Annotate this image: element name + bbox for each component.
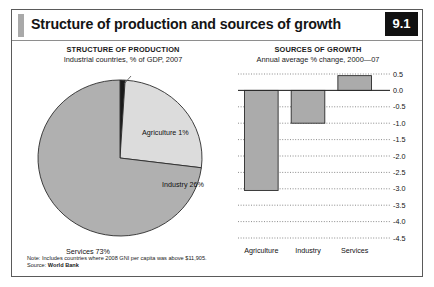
bar-series-group — [245, 76, 372, 191]
ytick-label--1.0: -1.0 — [393, 119, 405, 128]
ytick-label--4.5: -4.5 — [393, 234, 405, 243]
ytick-label--3.5: -3.5 — [393, 201, 405, 210]
right-panel-header: SOURCES OF GROWTH Annual average % chang… — [218, 45, 418, 64]
pie-slice-industry — [120, 80, 202, 168]
ytick-label--2.5: -2.5 — [393, 168, 405, 177]
ytick-label--2.0: -2.0 — [393, 152, 405, 161]
footnote-note: Note: Includes countries where 2008 GNI … — [27, 255, 327, 263]
bar-services — [338, 76, 372, 91]
bar-chart: 0.50.0-0.5-1.0-1.5-2.0-2.5-3.0-3.5-4.0-4… — [218, 66, 418, 258]
left-panel-header: STRUCTURE OF PRODUCTION Industrial count… — [28, 45, 218, 64]
figure-title-bar: Structure of production and sources of g… — [12, 10, 422, 41]
ytick-label--3.0: -3.0 — [393, 184, 405, 193]
figure-number-badge: 9.1 — [385, 12, 418, 36]
footnote-source: Source: World Bank — [27, 262, 327, 270]
right-panel-subtitle: Annual average % change, 2000—07 — [218, 55, 418, 64]
figure-card: Structure of production and sources of g… — [11, 9, 423, 277]
bar-ytick-labels: 0.50.0-0.5-1.0-1.5-2.0-2.5-3.0-3.5-4.0-4… — [393, 70, 405, 243]
footnote-source-label: Source: — [27, 262, 48, 268]
footnote: Note: Includes countries where 2008 GNI … — [27, 255, 327, 270]
title-accent-bar — [18, 14, 24, 37]
ytick-label-0.0: 0.0 — [393, 86, 403, 95]
ytick-label--1.5: -1.5 — [393, 135, 405, 144]
right-panel-title: SOURCES OF GROWTH — [218, 45, 418, 54]
bar-xlabel-services: Services — [325, 246, 385, 255]
pie-label-industry: Industry 26% — [162, 180, 204, 189]
bar-chart-svg: 0.50.0-0.5-1.0-1.5-2.0-2.5-3.0-3.5-4.0-4… — [218, 66, 418, 258]
bar-agriculture — [245, 90, 279, 190]
ytick-label--4.0: -4.0 — [393, 217, 405, 226]
footnote-source-value: World Bank — [48, 262, 79, 268]
pie-chart-svg — [20, 66, 216, 246]
left-panel-title: STRUCTURE OF PRODUCTION — [28, 45, 218, 54]
pie-chart: Agriculture 1% Industry 26% Services 73% — [20, 66, 216, 246]
left-panel-subtitle: Industrial countries, % of GDP, 2007 — [28, 55, 218, 64]
ytick-label--0.5: -0.5 — [393, 102, 405, 111]
ytick-label-0.5: 0.5 — [393, 70, 403, 79]
pie-label-agriculture: Agriculture 1% — [142, 128, 189, 137]
figure-page: Structure of production and sources of g… — [0, 0, 434, 287]
pie-slice-group — [38, 80, 202, 236]
page-title: Structure of production and sources of g… — [31, 16, 341, 32]
bar-industry — [291, 90, 325, 123]
